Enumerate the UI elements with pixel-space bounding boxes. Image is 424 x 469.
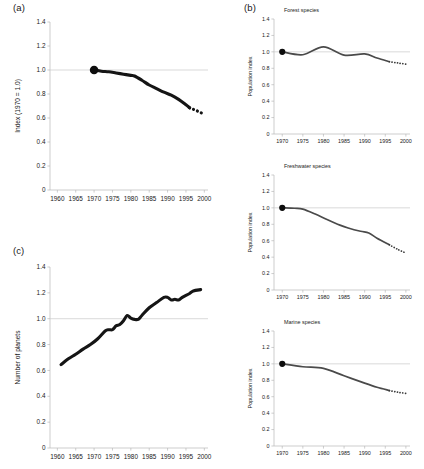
panel-a-living-planet-index: (a) 00.20.40.60.81.01.21.419601965197019… xyxy=(0,0,215,212)
axis-spine xyxy=(274,19,410,134)
x-tick-label: 1965 xyxy=(69,453,84,460)
x-tick-label: 1965 xyxy=(69,195,84,202)
x-tick-label: 1975 xyxy=(105,195,120,202)
x-tick-label: 1960 xyxy=(50,195,65,202)
data-series-line xyxy=(389,245,405,253)
y-tick-label: 1.0 xyxy=(262,49,270,55)
x-tick-label: 1980 xyxy=(124,453,139,460)
y-tick-label: 0.4 xyxy=(262,410,270,416)
y-tick-label: 0.4 xyxy=(37,392,46,399)
x-tick-label: 1970 xyxy=(276,450,288,456)
x-tick-label: 1980 xyxy=(124,195,139,202)
x-tick-label: 1980 xyxy=(317,138,329,144)
x-tick-label: 1970 xyxy=(276,138,288,144)
series-start-marker xyxy=(279,205,285,211)
y-tick-label: 1.4 xyxy=(37,18,46,25)
chart-title: Freshwater species xyxy=(284,163,331,169)
x-tick-label: 1995 xyxy=(179,195,194,202)
x-tick-label: 1960 xyxy=(50,453,65,460)
chart-c-canvas: 00.20.40.60.81.01.21.4196019651970197519… xyxy=(0,245,215,469)
y-tick-label: 1.2 xyxy=(262,344,270,350)
data-series-line xyxy=(61,290,201,365)
y-tick-label: 0.8 xyxy=(262,377,270,383)
x-tick-label: 1975 xyxy=(297,138,309,144)
axis-spine xyxy=(274,331,410,446)
y-tick-label: 0.4 xyxy=(37,138,46,145)
y-tick-label: 0.4 xyxy=(262,98,270,104)
y-tick-label: 0.6 xyxy=(262,238,270,244)
data-series-line xyxy=(282,208,389,245)
panel-b-species-group: (b) Forest species00.20.40.60.81.01.21.4… xyxy=(212,0,424,469)
y-tick-label: 1.0 xyxy=(262,205,270,211)
x-tick-label: 1970 xyxy=(87,453,102,460)
y-tick-label: 0 xyxy=(267,131,270,137)
y-tick-label: 0.6 xyxy=(262,394,270,400)
x-tick-label: 1985 xyxy=(142,195,157,202)
x-tick-label: 1995 xyxy=(379,294,391,300)
x-tick-label: 1990 xyxy=(359,450,371,456)
y-tick-label: 1.4 xyxy=(262,172,270,178)
y-tick-label: 0.2 xyxy=(37,162,46,169)
y-tick-label: 0.6 xyxy=(37,114,46,121)
x-tick-label: 1970 xyxy=(276,294,288,300)
y-tick-label: 1.4 xyxy=(37,263,46,270)
x-tick-label: 1970 xyxy=(87,195,102,202)
data-series-line xyxy=(389,391,405,394)
y-tick-label: 0.2 xyxy=(262,270,270,276)
y-tick-label: 0.6 xyxy=(37,367,46,374)
y-axis-label: Number of planets xyxy=(14,330,22,385)
y-tick-label: 0 xyxy=(42,444,46,451)
panel-a-label: (a) xyxy=(13,2,25,13)
x-tick-label: 2000 xyxy=(400,138,412,144)
series-start-marker xyxy=(279,361,285,367)
y-axis-label: Index (1970 = 1.0) xyxy=(14,79,22,133)
y-axis-label: Population index xyxy=(247,56,253,96)
data-series-line xyxy=(282,47,389,62)
x-tick-label: 2000 xyxy=(197,453,212,460)
chart-title: Marine species xyxy=(284,319,321,325)
x-tick-label: 1985 xyxy=(338,138,350,144)
x-tick-label: 1995 xyxy=(379,138,391,144)
y-tick-label: 1.2 xyxy=(262,32,270,38)
y-tick-label: 1.0 xyxy=(37,315,46,322)
x-tick-label: 1985 xyxy=(338,294,350,300)
y-tick-label: 1.2 xyxy=(37,42,46,49)
y-tick-label: 0.2 xyxy=(262,426,270,432)
axis-spine xyxy=(50,267,208,448)
x-tick-label: 2000 xyxy=(197,195,212,202)
chart-forest-species-canvas: Forest species00.20.40.60.81.01.21.41970… xyxy=(212,0,424,156)
y-tick-label: 0 xyxy=(267,443,270,449)
x-tick-label: 1985 xyxy=(142,453,157,460)
x-tick-label: 1975 xyxy=(297,450,309,456)
y-tick-label: 0 xyxy=(42,186,46,193)
x-tick-label: 1990 xyxy=(160,195,175,202)
panel-c-label: (c) xyxy=(13,245,24,256)
y-tick-label: 1.4 xyxy=(262,328,270,334)
x-tick-label: 1985 xyxy=(338,450,350,456)
x-tick-label: 1980 xyxy=(317,450,329,456)
y-tick-label: 1.4 xyxy=(262,16,270,22)
axis-spine xyxy=(50,22,208,190)
x-tick-label: 1990 xyxy=(359,294,371,300)
y-tick-label: 1.2 xyxy=(262,188,270,194)
y-tick-label: 0.8 xyxy=(37,90,46,97)
y-tick-label: 0.6 xyxy=(262,82,270,88)
data-series-line xyxy=(190,108,205,114)
y-tick-label: 0.8 xyxy=(262,65,270,71)
data-series-line xyxy=(94,70,190,108)
x-tick-label: 1990 xyxy=(359,138,371,144)
y-tick-label: 1.0 xyxy=(37,66,46,73)
x-tick-label: 1995 xyxy=(379,450,391,456)
y-tick-label: 0.8 xyxy=(262,221,270,227)
series-start-marker xyxy=(279,49,285,55)
y-axis-label: Population index xyxy=(247,368,253,408)
series-start-marker xyxy=(90,66,99,75)
y-tick-label: 1.0 xyxy=(262,361,270,367)
x-tick-label: 1975 xyxy=(105,453,120,460)
y-tick-label: 0.2 xyxy=(37,418,46,425)
y-tick-label: 0.2 xyxy=(262,114,270,120)
y-tick-label: 1.2 xyxy=(37,289,46,296)
chart-a-canvas: 00.20.40.60.81.01.21.4196019651970197519… xyxy=(0,0,215,212)
y-tick-label: 0.8 xyxy=(37,341,46,348)
y-tick-label: 0 xyxy=(267,287,270,293)
